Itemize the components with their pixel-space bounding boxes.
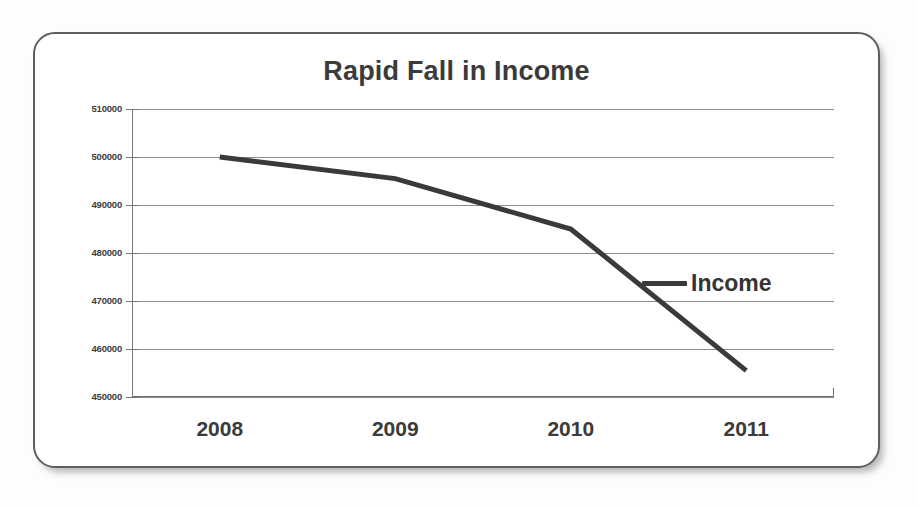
y-axis-tick-label: 450000 — [42, 391, 122, 402]
gridline — [132, 397, 834, 398]
y-axis-tick-label: 490000 — [42, 199, 122, 210]
x-axis-tick-label: 2008 — [160, 417, 280, 441]
y-axis-tick-mark — [126, 397, 138, 398]
chart-title: Rapid Fall in Income — [35, 56, 878, 87]
chart-legend: Income — [642, 270, 772, 297]
plot-area: 5100005000004900004800004700004600004500… — [132, 109, 834, 397]
income-line-series — [132, 109, 834, 397]
x-axis-tick-label: 2011 — [686, 417, 806, 441]
legend-line-swatch-income — [642, 281, 687, 286]
y-axis-tick-label: 500000 — [42, 151, 122, 162]
x-axis-tick-label: 2010 — [511, 417, 631, 441]
y-axis-tick-label: 510000 — [42, 103, 122, 114]
x-axis-tick-label: 2009 — [335, 417, 455, 441]
legend-label-income: Income — [691, 270, 772, 297]
y-axis-tick-label: 470000 — [42, 295, 122, 306]
y-axis-tick-label: 460000 — [42, 343, 122, 354]
chart-card: Rapid Fall in Income 5100005000004900004… — [33, 32, 880, 468]
y-axis-tick-label: 480000 — [42, 247, 122, 258]
scanned-page: Rapid Fall in Income 5100005000004900004… — [0, 0, 918, 508]
